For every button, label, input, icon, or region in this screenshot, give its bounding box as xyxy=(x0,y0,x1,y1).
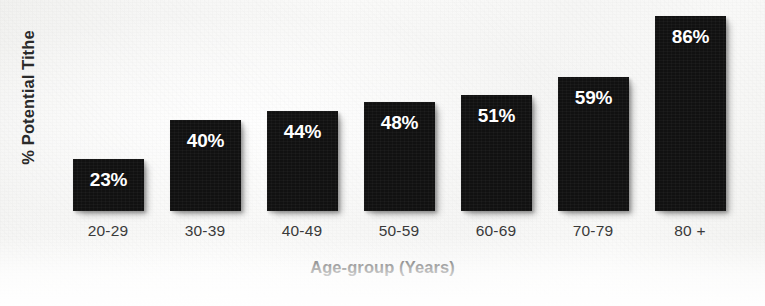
bar-value-label: 86% xyxy=(655,26,726,48)
bar-value-label: 40% xyxy=(170,130,241,152)
bar-group-40-49: 44% xyxy=(267,0,338,211)
x-tick-70-79: 70-79 xyxy=(543,222,643,240)
bar-50-59: 48% xyxy=(364,102,435,211)
bar-group-30-39: 40% xyxy=(170,0,241,211)
bar-80-plus: 86% xyxy=(655,16,726,211)
bar-20-29: 23% xyxy=(73,159,144,211)
bar-60-69: 51% xyxy=(461,95,532,211)
bar-group-60-69: 51% xyxy=(461,0,532,211)
plot-area: 23% 40% 44% 48% 51% 59% xyxy=(56,0,756,211)
bar-group-70-79: 59% xyxy=(558,0,629,211)
y-axis-title: % Potential Tithe xyxy=(0,0,56,195)
bar-30-39: 40% xyxy=(170,120,241,211)
x-tick-60-69: 60-69 xyxy=(446,222,546,240)
bar-value-label: 44% xyxy=(267,121,338,143)
x-tick-20-29: 20-29 xyxy=(58,222,158,240)
bar-group-50-59: 48% xyxy=(364,0,435,211)
x-axis-tick-labels: 20-29 30-39 40-49 50-59 60-69 70-79 80 + xyxy=(56,222,756,248)
x-axis-title: Age-group (Years) xyxy=(0,258,765,277)
bar-value-label: 48% xyxy=(364,112,435,134)
bar-chart: % Potential Tithe 23% 40% 44% 48% 51% xyxy=(0,0,765,306)
bar-70-79: 59% xyxy=(558,77,629,211)
bar-value-label: 51% xyxy=(461,105,532,127)
x-tick-40-49: 40-49 xyxy=(252,222,352,240)
x-tick-50-59: 50-59 xyxy=(349,222,449,240)
bar-group-80-plus: 86% xyxy=(655,0,726,211)
bar-value-label: 23% xyxy=(73,169,144,191)
bar-value-label: 59% xyxy=(558,87,629,109)
x-tick-80-plus: 80 + xyxy=(640,222,740,240)
bar-group-20-29: 23% xyxy=(73,0,144,211)
bar-40-49: 44% xyxy=(267,111,338,211)
x-tick-30-39: 30-39 xyxy=(155,222,255,240)
